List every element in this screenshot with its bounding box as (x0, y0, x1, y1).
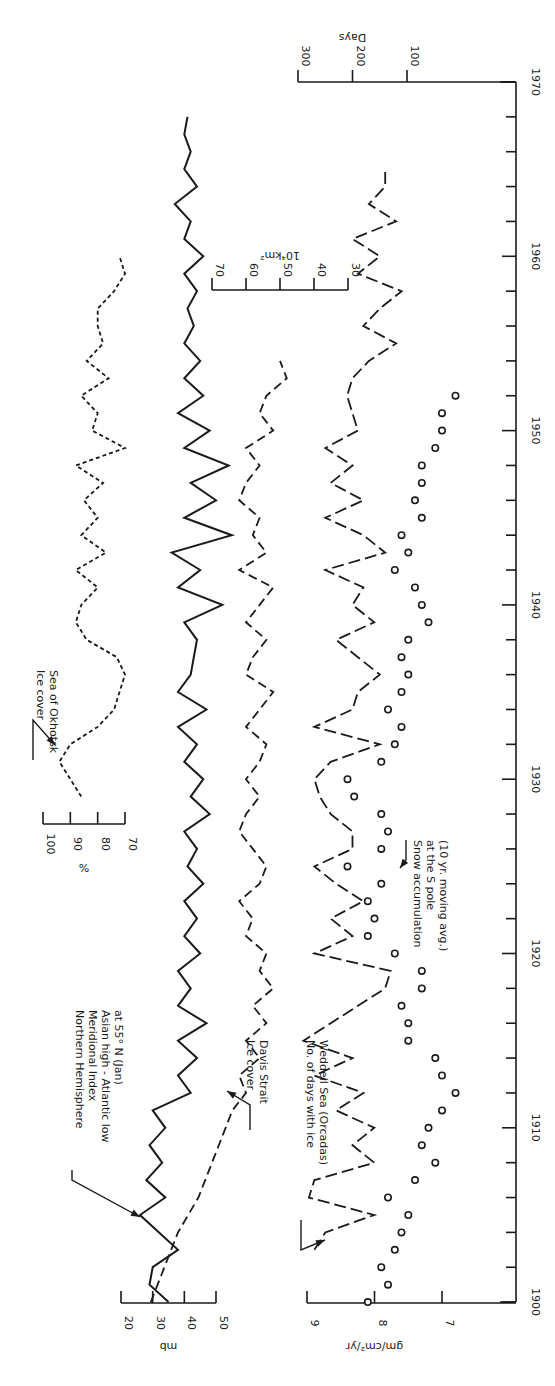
time-tick-label: 1900 (529, 1288, 542, 1316)
time-tick-label: 1950 (529, 417, 542, 445)
snow-accumulation-point (365, 898, 371, 904)
snow-accumulation-point (419, 480, 425, 486)
series-line-2 (151, 361, 287, 1302)
snow-accumulation-point (405, 549, 411, 555)
snow-accumulation-point (365, 1299, 371, 1305)
snow-accumulation-text: (10 yr. moving avg.) (437, 840, 450, 951)
arrow-icon (400, 859, 408, 868)
snow-accumulation-point (412, 1177, 418, 1183)
snow-accumulation-point (392, 741, 398, 747)
time-tick-label: 1970 (529, 68, 542, 96)
snow-accumulation-point (344, 863, 350, 869)
time-tick-label: 1960 (529, 242, 542, 270)
snow-accumulation-point (439, 410, 445, 416)
snow-accumulation-point (385, 1194, 391, 1200)
gm-tick-label: 8 (376, 1320, 389, 1327)
snow-accumulation-text: Snow accumulation (411, 840, 424, 948)
okhotsk-text: Ice cover (34, 670, 47, 721)
snow-accumulation-point (405, 1038, 411, 1044)
gm-unit-label: gm/cm²/yr (345, 1340, 403, 1353)
mb-tick-label: 40 (185, 1316, 198, 1330)
snow-accumulation-point (412, 584, 418, 590)
snow-accumulation-point (385, 706, 391, 712)
snow-accumulation-point (419, 1142, 425, 1148)
snow-accumulation-point (392, 950, 398, 956)
snow-accumulation-point (439, 427, 445, 433)
snow-accumulation-text: at the S pole (424, 840, 437, 910)
snow-accumulation-point (405, 1020, 411, 1026)
km2-tick-label: 40 (315, 263, 328, 277)
snow-accumulation-point (405, 637, 411, 643)
snow-accumulation-point (385, 828, 391, 834)
nh-meridional-index-text: Meridional Index (86, 1010, 99, 1102)
mb-tick-label: 50 (217, 1316, 230, 1330)
pct-tick-label: 80 (99, 837, 112, 851)
snow-accumulation-point (378, 1264, 384, 1270)
mb-tick-label: 30 (154, 1316, 167, 1330)
km2-tick-label: 50 (281, 263, 294, 277)
snow-accumulation-point (439, 1072, 445, 1078)
snow-accumulation-point (365, 933, 371, 939)
snow-accumulation-point (344, 776, 350, 782)
snow-accumulation-point (398, 1003, 404, 1009)
km2-tick-label: 70 (213, 263, 226, 277)
time-tick-label: 1910 (529, 1114, 542, 1142)
days-unit-label: Days (339, 31, 367, 44)
snow-accumulation-point (419, 602, 425, 608)
snow-accumulation-point (398, 532, 404, 538)
gm-tick-label: 9 (308, 1320, 321, 1327)
snow-accumulation-point (452, 1090, 458, 1096)
snow-accumulation-point (419, 985, 425, 991)
snow-accumulation-point (432, 1055, 438, 1061)
nh-meridional-index-leader (72, 1170, 140, 1217)
snow-accumulation-point (351, 793, 357, 799)
davis-strait-leader (227, 1091, 250, 1130)
days-tick-label: 200 (354, 46, 367, 67)
arrow-icon (130, 1210, 140, 1217)
km2-unit-label: 10⁴km² (260, 249, 300, 262)
snow-accumulation-point (432, 445, 438, 451)
pct-tick-label: 100 (44, 834, 57, 855)
pct-unit-label: % (79, 861, 89, 874)
davis-strait-text: Davis Strait (257, 1040, 270, 1105)
snow-accumulation-point (452, 393, 458, 399)
series-line-0 (140, 117, 232, 1302)
snow-accumulation-point (378, 846, 384, 852)
snow-accumulation-point (425, 619, 431, 625)
weddell-sea-leader (301, 1220, 325, 1250)
labels-group: at 55° N (Jan)Asian high - Atlantic lowM… (33, 670, 450, 1250)
nh-meridional-index-text: Northern Hemisphere (73, 1010, 86, 1129)
km2-tick-label: 60 (247, 263, 260, 277)
snow-accumulation-point (432, 1160, 438, 1166)
snow-accumulation-point (398, 654, 404, 660)
snow-accumulation-point (378, 759, 384, 765)
snow-accumulation-point (392, 567, 398, 573)
pct-tick-label: 70 (126, 837, 139, 851)
chart-svg: 1900191019201930194019501960197020304050… (0, 0, 555, 1386)
snow-accumulation-point (371, 915, 377, 921)
snow-accumulation-point (439, 1107, 445, 1113)
arrow-icon (227, 1091, 237, 1099)
snow-accumulation-point (392, 1247, 398, 1253)
mb-tick-label: 20 (122, 1316, 135, 1330)
snow-accumulation-point (378, 811, 384, 817)
nh-meridional-index-text: at 55° N (Jan) (112, 1010, 125, 1085)
time-tick-label: 1940 (529, 591, 542, 619)
axes-group: 1900191019201930194019501960197020304050… (43, 31, 542, 1353)
snow-accumulation-point (385, 1282, 391, 1288)
climate-time-series-chart: 1900191019201930194019501960197020304050… (0, 0, 555, 1386)
snow-accumulation-point (412, 497, 418, 503)
snow-accumulation-point (419, 515, 425, 521)
series-line-1 (59, 256, 125, 796)
snow-accumulation-point (398, 724, 404, 730)
series-group (59, 117, 458, 1305)
mb-unit-label: mb (160, 1340, 178, 1353)
time-tick-label: 1930 (529, 765, 542, 793)
days-tick-label: 100 (408, 46, 421, 67)
snow-accumulation-point (419, 462, 425, 468)
days-tick-label: 300 (299, 46, 312, 67)
snow-accumulation-point (419, 968, 425, 974)
snow-accumulation-point (378, 881, 384, 887)
weddell-sea-text: No. of days with ice (304, 1040, 317, 1148)
snow-accumulation-point (398, 689, 404, 695)
